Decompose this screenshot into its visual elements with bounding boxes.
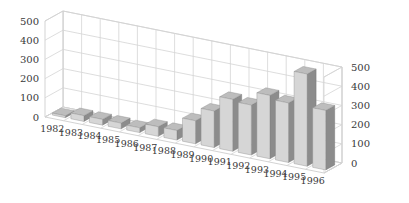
right-tick-label: 300 bbox=[351, 100, 370, 111]
side-wall bbox=[45, 11, 63, 117]
right-tick-label: 0 bbox=[351, 158, 357, 169]
left-tick-label: 100 bbox=[20, 92, 39, 103]
left-tick-label: 400 bbox=[20, 35, 39, 46]
left-tick-label: 200 bbox=[20, 73, 39, 84]
left-tick-label: 0 bbox=[33, 112, 39, 123]
left-tick-label: 500 bbox=[20, 16, 39, 27]
bar-1996 bbox=[313, 103, 335, 170]
left-tick-label: 300 bbox=[20, 54, 39, 65]
bar-chart-3d: 0100200300400500 0100200300400500 198219… bbox=[0, 0, 409, 203]
right-tick-label: 100 bbox=[351, 138, 370, 149]
category-label: 1996 bbox=[301, 175, 325, 186]
left-y-axis: 0100200300400500 bbox=[20, 16, 39, 123]
right-tick-label: 200 bbox=[351, 119, 370, 130]
right-y-axis: 0100200300400500 bbox=[351, 62, 370, 169]
right-tick-label: 500 bbox=[351, 62, 370, 73]
right-tick-label: 400 bbox=[351, 81, 370, 92]
chart-canvas: 0100200300400500 0100200300400500 198219… bbox=[0, 0, 409, 203]
